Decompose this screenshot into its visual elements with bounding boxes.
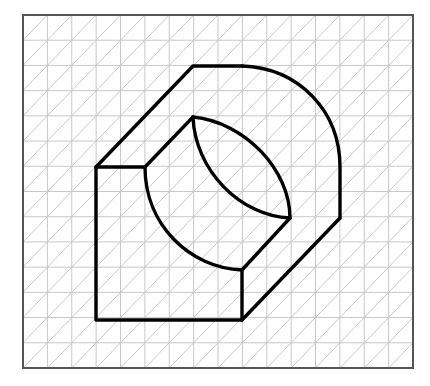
isometric-diagram xyxy=(0,0,430,386)
background xyxy=(0,0,430,386)
